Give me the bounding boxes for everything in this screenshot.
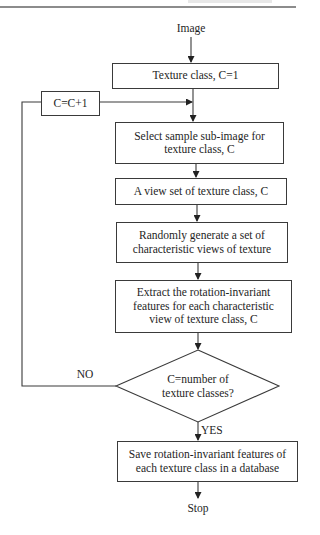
decision-line-2: texture classes? bbox=[148, 387, 248, 401]
step-generate-line-1: Randomly generate a set of bbox=[139, 229, 265, 243]
step-select-line-2: texture class, C bbox=[164, 143, 235, 157]
step-save-line-2: each texture class in a database bbox=[136, 462, 279, 476]
step-generate-line-2: characteristic views of texture bbox=[133, 243, 271, 257]
step-extract-line-1: Extract the rotation-invariant bbox=[137, 286, 270, 300]
step-select-line-1: Select sample sub-image for bbox=[134, 130, 265, 144]
step-generate-box: Randomly generate a set of characteristi… bbox=[116, 222, 288, 263]
no-label: NO bbox=[70, 368, 100, 382]
step-save-box: Save rotation-invariant features of each… bbox=[117, 441, 298, 482]
step-extract-line-2: features for each characteristic bbox=[133, 300, 274, 314]
step-select-box: Select sample sub-image for texture clas… bbox=[115, 122, 284, 164]
step-increment-box: C=C+1 bbox=[41, 91, 100, 116]
decision-line-1: C=number of bbox=[148, 373, 248, 387]
start-label: Image bbox=[171, 22, 211, 36]
step-extract-box: Extract the rotation-invariant features … bbox=[115, 280, 292, 333]
step-init-text: Texture class, C=1 bbox=[153, 69, 239, 83]
step-viewset-text: A view set of texture class, C bbox=[134, 185, 268, 199]
end-label: Stop bbox=[178, 502, 218, 516]
step-save-line-1: Save rotation-invariant features of bbox=[129, 448, 286, 462]
arrow-no-feedback bbox=[22, 102, 116, 386]
step-init-box: Texture class, C=1 bbox=[112, 63, 279, 89]
step-viewset-box: A view set of texture class, C bbox=[115, 178, 287, 205]
yes-label: YES bbox=[201, 424, 229, 438]
decision-text: C=number of texture classes? bbox=[148, 373, 248, 400]
step-increment-text: C=C+1 bbox=[53, 97, 87, 111]
step-extract-line-3: view of texture class, C bbox=[149, 313, 257, 327]
